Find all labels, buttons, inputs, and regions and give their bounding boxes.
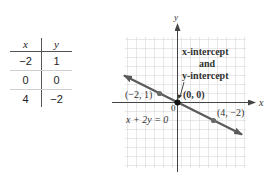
point-label-neg2-1: (−2, 1)	[125, 89, 152, 101]
point-label-4-neg2: (4, −2)	[217, 107, 244, 119]
point-neg2-1	[157, 91, 162, 96]
point-origin	[175, 100, 181, 106]
equation-label: x + 2y = 0	[125, 114, 168, 125]
coordinate-graph: x y 0 (−2, 1) (0, 0) (4, −2) x + 2y = 0 …	[0, 0, 266, 185]
point-4-neg2	[211, 118, 216, 123]
annotation-line1: x-intercept	[182, 46, 229, 57]
y-axis-label: y	[173, 12, 178, 22]
annotation-line3: y-intercept	[182, 70, 229, 81]
x-axis-label: x	[258, 97, 264, 108]
annotation-line2: and	[199, 58, 216, 69]
point-label-origin: (0, 0)	[183, 89, 205, 101]
origin-label: 0	[171, 103, 176, 113]
